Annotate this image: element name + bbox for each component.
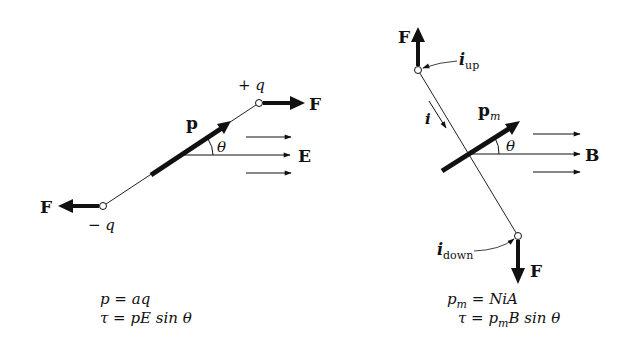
magnetic-moment-bar xyxy=(442,128,510,171)
plus-charge-label: + q xyxy=(238,76,265,94)
dipole-thick-bar xyxy=(151,128,222,175)
minus-charge-label: − q xyxy=(88,216,115,234)
i-down-subscript: down xyxy=(443,249,473,262)
force-arrow-up-head xyxy=(411,27,425,42)
angle-arc-theta-b xyxy=(495,138,499,154)
force-arrow-left-head xyxy=(58,199,73,213)
equation-torque-electric: τ = pE sin θ xyxy=(100,309,192,328)
equation-torque-magnetic: τ = pmB sin θ xyxy=(458,309,560,333)
electric-dipole-diagram xyxy=(58,96,305,213)
bottom-wire-marker xyxy=(515,233,522,240)
eq2-lhs: τ = p xyxy=(458,309,498,327)
minus-charge-marker xyxy=(100,203,107,210)
force-up-label: F xyxy=(398,27,410,47)
eq1-rhs: = NiA xyxy=(467,290,518,308)
angle-arc-theta xyxy=(208,139,213,155)
magnetic-moment-label: pm xyxy=(478,100,500,123)
eq2-rhs: B sin θ xyxy=(508,309,560,327)
field-b-label: B xyxy=(585,145,599,165)
force-down-label: F xyxy=(530,261,542,281)
top-wire-marker xyxy=(415,67,422,74)
i-down-label: idown xyxy=(437,240,473,262)
pm-main: p xyxy=(478,100,490,120)
pm-subscript: m xyxy=(490,110,500,123)
eq1-lhs: p xyxy=(447,290,457,308)
force-arrow-right-head xyxy=(290,96,305,110)
field-e-label: E xyxy=(298,146,311,166)
current-direction-arrow xyxy=(429,101,446,128)
i-up-leader xyxy=(423,61,457,68)
i-up-label: iup xyxy=(459,50,479,72)
equation-dipole-moment: p = aq xyxy=(100,290,150,309)
eq2-sub: m xyxy=(498,317,508,330)
i-down-leader xyxy=(474,239,514,251)
angle-theta-b-label: θ xyxy=(506,137,515,155)
i-up-subscript: up xyxy=(465,59,479,72)
diagram-canvas xyxy=(0,0,626,348)
plus-charge-marker xyxy=(256,100,263,107)
force-left-label: F xyxy=(40,197,52,217)
force-arrow-down-head xyxy=(511,268,525,284)
angle-theta-label: θ xyxy=(217,138,226,156)
force-right-label: F xyxy=(309,94,321,114)
current-label: i xyxy=(425,110,431,128)
dipole-moment-label: p xyxy=(186,113,198,133)
